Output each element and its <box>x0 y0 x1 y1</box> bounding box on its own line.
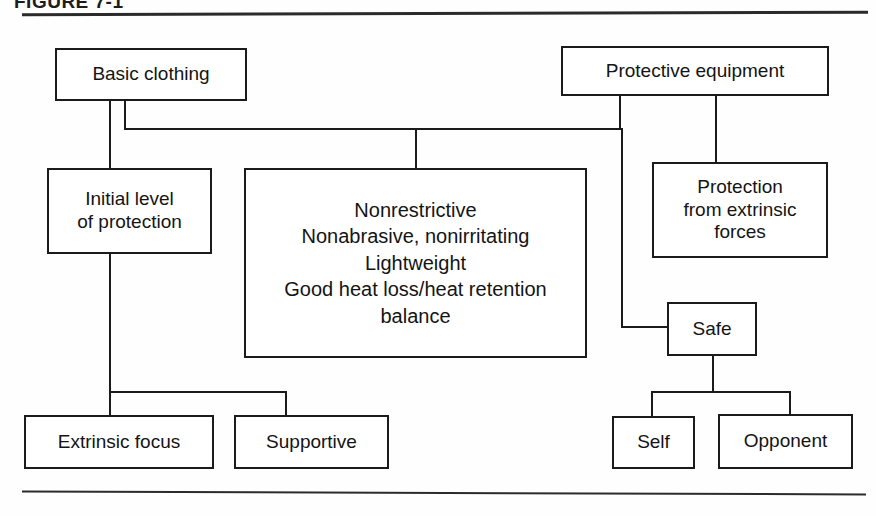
connector-bottom-left-bus <box>109 391 286 393</box>
node-initial-level-of-protection-label: Initial level of protection <box>65 188 194 234</box>
figure-panel: FIGURE 7-1 Basic clothing Protective equ… <box>0 0 876 516</box>
node-basic-clothing[interactable]: Basic clothing <box>55 48 247 101</box>
criteria-line-3: Lightweight <box>278 250 552 276</box>
connector-protective-to-bus <box>619 95 621 129</box>
criteria-line-4: Good heat loss/heat retention <box>278 276 552 302</box>
node-protection-from-extrinsic-forces[interactable]: Protection from extrinsic forces <box>652 162 828 258</box>
node-extrinsic-focus-label: Extrinsic focus <box>52 431 186 454</box>
node-self[interactable]: Self <box>612 416 695 469</box>
criteria-line-2: Nonabrasive, nonirritating <box>278 223 552 249</box>
connector-protective-to-safe-horizontal <box>621 326 669 328</box>
connector-bus-to-criteria <box>415 128 417 170</box>
initial-level-line-2: of protection <box>71 211 188 234</box>
node-clothing-criteria-label: Nonrestrictive Nonabrasive, nonirritatin… <box>272 197 558 329</box>
connector-horizontal-bus <box>124 128 621 130</box>
connector-initial-to-bottom-bus <box>109 253 111 393</box>
node-protection-from-extrinsic-forces-label: Protection from extrinsic forces <box>672 176 809 244</box>
protection-extrinsic-line-2: from extrinsic <box>678 199 803 222</box>
node-safe-label: Safe <box>686 318 737 341</box>
node-safe[interactable]: Safe <box>667 302 757 356</box>
node-supportive-label: Supportive <box>260 431 363 454</box>
connector-protective-to-safe-vertical <box>621 128 623 328</box>
protection-extrinsic-line-1: Protection <box>678 176 803 199</box>
node-opponent-label: Opponent <box>738 430 833 453</box>
top-divider-rule <box>22 11 868 17</box>
node-protective-equipment[interactable]: Protective equipment <box>561 46 829 96</box>
connector-basic-to-bus <box>124 100 126 129</box>
connector-basic-to-initial <box>109 100 111 169</box>
connector-protective-to-protection <box>715 95 717 163</box>
node-extrinsic-focus[interactable]: Extrinsic focus <box>24 415 214 469</box>
connector-safe-to-bottom-bus <box>712 356 714 393</box>
connector-bottom-right-bus <box>651 391 791 393</box>
connector-bus-to-self <box>651 391 653 417</box>
node-supportive[interactable]: Supportive <box>234 415 389 469</box>
figure-caption: FIGURE 7-1 <box>14 0 124 13</box>
protection-extrinsic-line-3: forces <box>678 221 803 244</box>
initial-level-line-1: Initial level <box>71 188 188 211</box>
node-self-label: Self <box>631 431 676 454</box>
connector-bus-to-extrinsic-focus <box>109 391 111 416</box>
criteria-line-1: Nonrestrictive <box>278 197 552 223</box>
node-protective-equipment-label: Protective equipment <box>600 60 791 83</box>
criteria-line-5: balance <box>278 303 552 329</box>
bottom-divider-rule <box>22 491 866 496</box>
node-opponent[interactable]: Opponent <box>718 414 853 469</box>
connector-bus-to-supportive <box>285 391 287 416</box>
node-initial-level-of-protection[interactable]: Initial level of protection <box>47 168 212 254</box>
node-clothing-criteria[interactable]: Nonrestrictive Nonabrasive, nonirritatin… <box>244 168 587 358</box>
node-basic-clothing-label: Basic clothing <box>86 63 215 86</box>
